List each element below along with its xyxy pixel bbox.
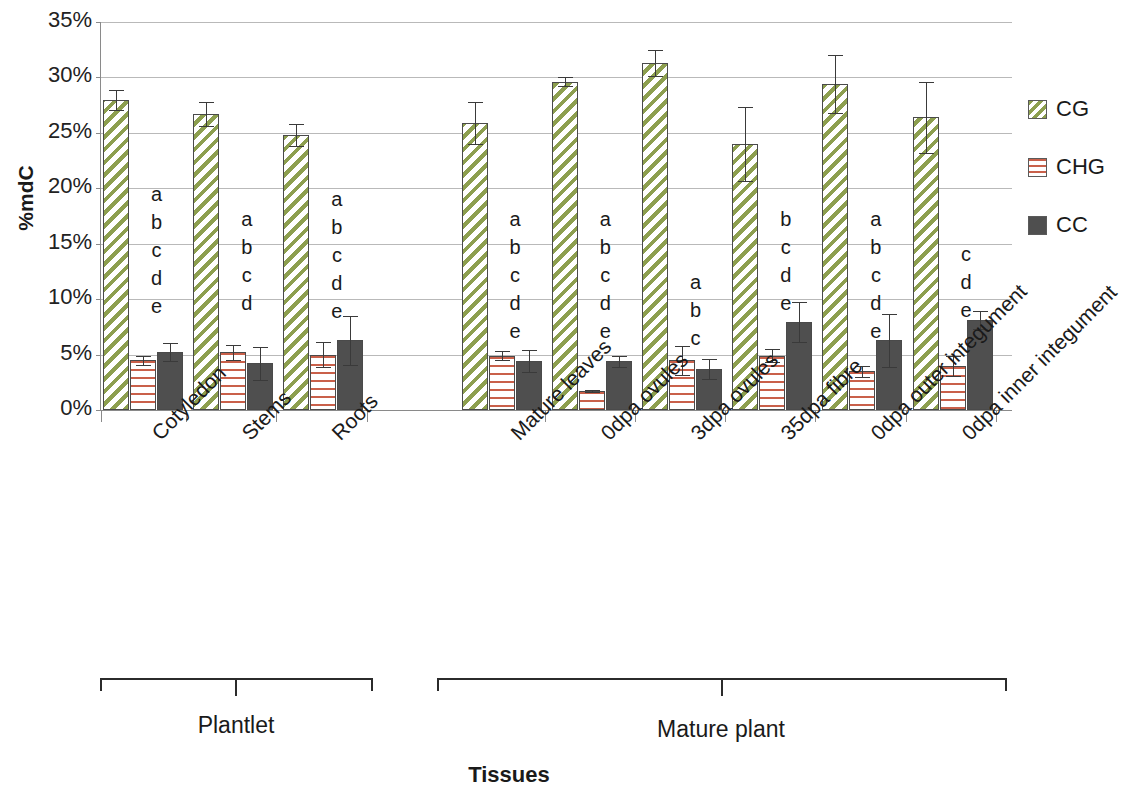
error-bar-cap bbox=[199, 126, 214, 127]
error-bar-cap bbox=[109, 110, 124, 111]
significance-letter: d bbox=[145, 264, 169, 292]
error-bar-cap bbox=[612, 356, 627, 357]
legend-swatch-cg bbox=[1028, 100, 1047, 119]
error-bar-cc-0 bbox=[170, 343, 171, 361]
significance-letter: a bbox=[235, 205, 259, 233]
error-bar-cap bbox=[648, 76, 663, 77]
significance-letter: c bbox=[325, 241, 349, 269]
significance-letter: c bbox=[593, 261, 617, 289]
bracket-left-tick bbox=[100, 678, 102, 691]
group-label-mature-plant: Mature plant bbox=[621, 716, 821, 743]
error-bar-cap bbox=[702, 379, 717, 380]
error-bar-cap bbox=[919, 153, 934, 154]
error-bar-chg-0 bbox=[143, 356, 144, 365]
significance-letter: b bbox=[325, 213, 349, 241]
significance-letter: b bbox=[235, 233, 259, 261]
significance-letter: c bbox=[774, 233, 798, 261]
legend-label-cg: CG bbox=[1056, 96, 1089, 122]
error-bar-cap bbox=[226, 345, 241, 346]
error-bar-cc-7 bbox=[889, 314, 890, 367]
error-bar-cap bbox=[648, 50, 663, 51]
significance-letter: d bbox=[864, 289, 888, 317]
error-bar-cap bbox=[343, 365, 358, 366]
legend-item-cg[interactable]: CG bbox=[1028, 96, 1089, 122]
error-bar-cg-1 bbox=[206, 102, 207, 126]
legend-label-chg: CHG bbox=[1056, 154, 1105, 180]
significance-letter: d bbox=[593, 289, 617, 317]
error-bar-cap bbox=[919, 82, 934, 83]
error-bar-cap bbox=[585, 392, 600, 393]
significance-letter: c bbox=[503, 261, 527, 289]
error-bar-cap bbox=[828, 55, 843, 56]
legend-item-chg[interactable]: CHG bbox=[1028, 154, 1105, 180]
error-bar-cap bbox=[495, 351, 510, 352]
bar-chg-0 bbox=[130, 360, 156, 410]
significance-letters-5: abc bbox=[684, 268, 708, 352]
error-bar-cg-7 bbox=[835, 55, 836, 113]
error-bar-cap bbox=[558, 86, 573, 87]
significance-letter: c bbox=[864, 261, 888, 289]
significance-letter: c bbox=[235, 261, 259, 289]
error-bar-cap bbox=[612, 367, 627, 368]
error-bar-cap bbox=[136, 356, 151, 357]
significance-letter: b bbox=[684, 296, 708, 324]
error-bar-cap bbox=[136, 365, 151, 366]
bracket-right-tick bbox=[1005, 678, 1007, 691]
bracket-right-tick bbox=[371, 678, 373, 691]
error-bar-cc-5 bbox=[709, 359, 710, 379]
significance-letters-7: abcde bbox=[864, 205, 888, 345]
error-bar-cc-6 bbox=[799, 302, 800, 342]
error-bar-cap bbox=[558, 77, 573, 78]
legend-swatch-chg bbox=[1028, 158, 1047, 177]
legend-swatch-cc bbox=[1028, 216, 1047, 235]
significance-letter: d bbox=[235, 289, 259, 317]
error-bar-cap bbox=[468, 102, 483, 103]
significance-letters-8: cde bbox=[954, 240, 978, 324]
significance-letters-2: abcde bbox=[325, 185, 349, 325]
significance-letter: a bbox=[864, 205, 888, 233]
significance-letter: a bbox=[325, 185, 349, 213]
significance-letter: e bbox=[774, 289, 798, 317]
significance-letters-6: bcde bbox=[774, 205, 798, 317]
bracket-left-tick bbox=[437, 678, 439, 691]
error-bar-cc-4 bbox=[619, 356, 620, 367]
error-bar-cg-2 bbox=[296, 124, 297, 146]
error-bar-cg-6 bbox=[745, 107, 746, 180]
error-bar-cap bbox=[163, 343, 178, 344]
significance-letter: a bbox=[503, 205, 527, 233]
significance-letters-0: abcde bbox=[145, 180, 169, 320]
significance-letter: b bbox=[864, 233, 888, 261]
error-bar-cap bbox=[316, 342, 331, 343]
legend: CGCHGCC bbox=[1028, 96, 1099, 256]
error-bar-cap bbox=[199, 102, 214, 103]
error-bar-cg-0 bbox=[116, 90, 117, 110]
significance-letter: d bbox=[954, 268, 978, 296]
group-label-plantlet: Plantlet bbox=[136, 712, 336, 739]
significance-letter: b bbox=[503, 233, 527, 261]
significance-letter: a bbox=[593, 205, 617, 233]
error-bar-cap bbox=[109, 90, 124, 91]
error-bar-chg-3 bbox=[502, 351, 503, 360]
bracket-center-tick bbox=[721, 678, 723, 696]
significance-letter: e bbox=[503, 317, 527, 345]
error-bar-cap bbox=[792, 342, 807, 343]
bar-chg-4 bbox=[579, 391, 605, 410]
error-bar-cap bbox=[468, 144, 483, 145]
significance-letter: d bbox=[325, 269, 349, 297]
error-bar-cap bbox=[289, 146, 304, 147]
legend-item-cc[interactable]: CC bbox=[1028, 212, 1088, 238]
error-bar-cap bbox=[226, 360, 241, 361]
x-axis-title: Tissues bbox=[409, 762, 609, 788]
bar-cg-0 bbox=[103, 100, 129, 410]
significance-letter: c bbox=[684, 324, 708, 352]
error-bar-cg-8 bbox=[926, 82, 927, 153]
error-bar-chg-2 bbox=[323, 342, 324, 366]
error-bar-cap bbox=[738, 181, 753, 182]
significance-letter: d bbox=[503, 289, 527, 317]
error-bar-cap bbox=[882, 367, 897, 368]
bar-cg-3 bbox=[462, 123, 488, 410]
error-bar-cap bbox=[163, 361, 178, 362]
error-bar-cap bbox=[738, 107, 753, 108]
significance-letter: b bbox=[774, 205, 798, 233]
error-bar-cc-3 bbox=[529, 350, 530, 372]
